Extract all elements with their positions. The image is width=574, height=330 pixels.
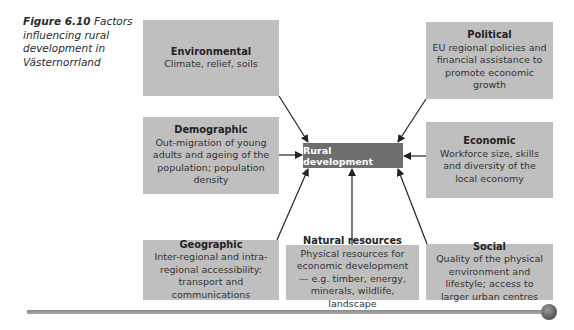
factor-desc: Inter-regional and intra-regional access… — [149, 251, 273, 301]
factor-title: Social — [473, 241, 506, 254]
arrow-political — [398, 99, 426, 142]
factor-desc: EU regional policies and financial assis… — [432, 42, 547, 92]
factor-desc: Quality of the physical environment and … — [432, 253, 547, 303]
factor-title: Political — [467, 29, 511, 42]
factor-desc: Climate, relief, soils — [164, 58, 258, 71]
factor-title: Demographic — [174, 124, 247, 137]
factor-desc: Out-migration of young adults and ageing… — [149, 137, 273, 187]
factor-desc: Physical resources for economic developm… — [292, 248, 413, 311]
arrow-geographic — [277, 169, 308, 240]
factor-title: Geographic — [179, 239, 242, 252]
arrow-social — [398, 169, 427, 244]
factor-title: Environmental — [171, 46, 251, 59]
factor-economic: Economic Workforce size, skills and dive… — [426, 122, 553, 198]
factor-title: Natural resources — [303, 235, 402, 248]
divider-rule — [27, 310, 547, 314]
factor-title: Economic — [463, 135, 515, 148]
factor-environmental: Environmental Climate, relief, soils — [143, 20, 279, 96]
factor-natural-resources: Natural resources Physical resources for… — [286, 245, 419, 300]
arrow-environmental — [279, 96, 308, 142]
rule-end-dot-icon — [541, 304, 557, 320]
factor-demographic: Demographic Out-migration of young adult… — [143, 117, 279, 194]
factor-geographic: Geographic Inter-regional and intra-regi… — [143, 240, 279, 300]
factor-desc: Workforce size, skills and diversity of … — [432, 148, 547, 186]
rural-development-node: Rural development — [303, 143, 403, 168]
factor-political: Political EU regional policies and finan… — [426, 22, 553, 99]
factor-social: Social Quality of the physical environme… — [426, 244, 553, 300]
